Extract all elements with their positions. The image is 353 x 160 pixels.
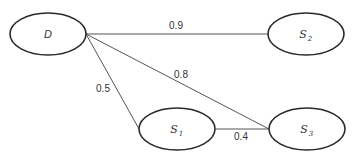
edge-label-d-s1: 0.5 bbox=[96, 83, 110, 94]
node-s1: S 1 bbox=[139, 108, 215, 150]
node-s1-label: S bbox=[170, 123, 178, 136]
node-s2: S 2 bbox=[268, 13, 344, 55]
node-d-label: D bbox=[44, 28, 52, 40]
node-s2-label: S bbox=[299, 28, 307, 41]
node-s3-label: S bbox=[300, 123, 308, 136]
node-s3: S 3 bbox=[269, 108, 345, 150]
node-s3-subscript: 3 bbox=[309, 130, 314, 138]
node-d: D bbox=[10, 13, 86, 55]
edge-label-s1-s3: 0.4 bbox=[234, 131, 248, 142]
edge-label-d-s3: 0.8 bbox=[174, 69, 188, 80]
node-s1-subscript: 1 bbox=[179, 130, 183, 138]
node-s2-subscript: 2 bbox=[307, 35, 313, 43]
edge-label-d-s2: 0.9 bbox=[169, 20, 183, 31]
graph-diagram: 0.9 0.8 0.5 0.4 D S 2 S 1 S 3 bbox=[0, 0, 353, 160]
